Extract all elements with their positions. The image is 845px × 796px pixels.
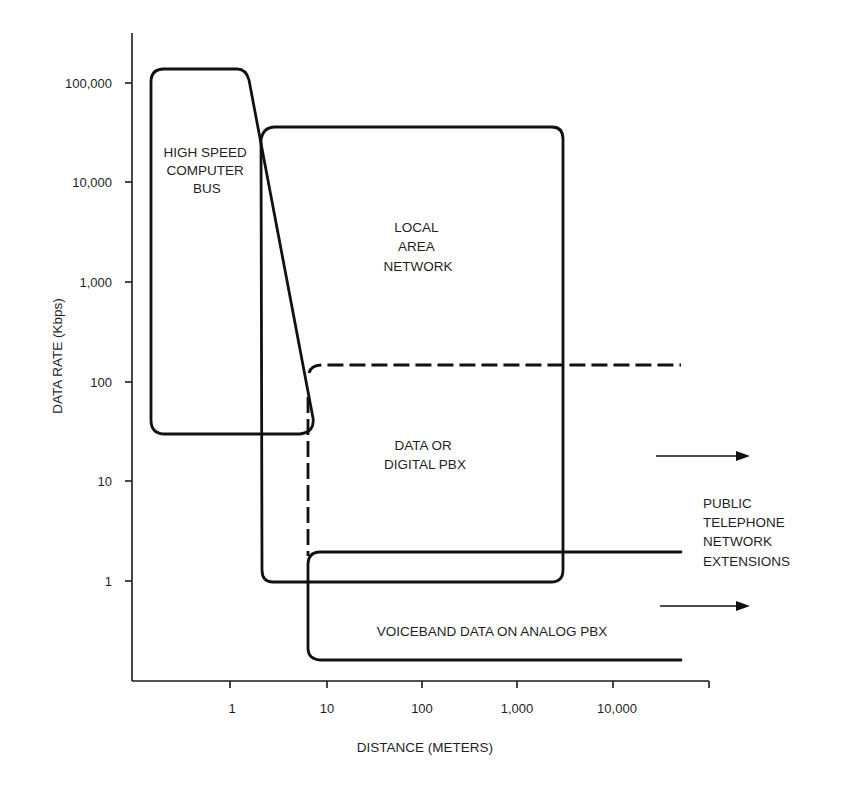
bus-label: HIGH SPEED COMPUTER BUS: [163, 145, 250, 196]
arrow-right-icon: [660, 601, 750, 611]
y-tick-label: 10,000: [72, 175, 112, 190]
y-tick-labels: 100,000 10,000 1,000 100 10 1: [65, 76, 112, 589]
voiceband-outline: [308, 552, 681, 660]
axes: 100,000 10,000 1,000 100 10 1 1 10 100 1…: [50, 33, 709, 755]
y-tick-label: 1: [105, 574, 112, 589]
y-axis-title: DATA RATE (Kbps): [50, 298, 65, 414]
data-rate-vs-distance-diagram: 100,000 10,000 1,000 100 10 1 1 10 100 1…: [0, 0, 845, 796]
voiceband-label: VOICEBAND DATA ON ANALOG PBX: [377, 624, 608, 639]
y-tick-label: 10: [98, 474, 112, 489]
y-tick-label: 100: [90, 375, 112, 390]
region-local-area-network: LOCAL AREA NETWORK: [261, 127, 563, 582]
public-telephone-label: PUBLIC TELEPHONE NETWORK EXTENSIONS: [703, 496, 790, 569]
region-voiceband-analog-pbx: VOICEBAND DATA ON ANALOG PBX: [308, 552, 681, 660]
x-ticks: [230, 681, 613, 688]
x-tick-label: 10: [320, 701, 334, 716]
lan-outline: [261, 127, 563, 582]
x-tick-label: 10,000: [597, 701, 637, 716]
region-high-speed-computer-bus: HIGH SPEED COMPUTER BUS: [151, 69, 313, 434]
x-tick-label: 100: [411, 701, 433, 716]
y-tick-label: 100,000: [65, 76, 112, 91]
x-tick-label: 1,000: [501, 701, 534, 716]
x-tick-labels: 1 10 100 1,000 10,000: [228, 701, 637, 716]
y-tick-label: 1,000: [79, 275, 112, 290]
public-telephone-annotation: PUBLIC TELEPHONE NETWORK EXTENSIONS: [656, 451, 790, 611]
lan-label: LOCAL AREA NETWORK: [384, 220, 453, 274]
x-tick-label: 1: [228, 701, 235, 716]
x-axis-title: DISTANCE (METERS): [357, 740, 493, 755]
region-digital-pbx: DATA OR DIGITAL PBX: [308, 365, 681, 556]
bus-outline: [151, 69, 313, 434]
arrow-right-icon: [656, 451, 750, 461]
pbx-top-boundary: [309, 365, 681, 373]
y-ticks: [125, 83, 132, 581]
pbx-label: DATA OR DIGITAL PBX: [384, 438, 466, 472]
